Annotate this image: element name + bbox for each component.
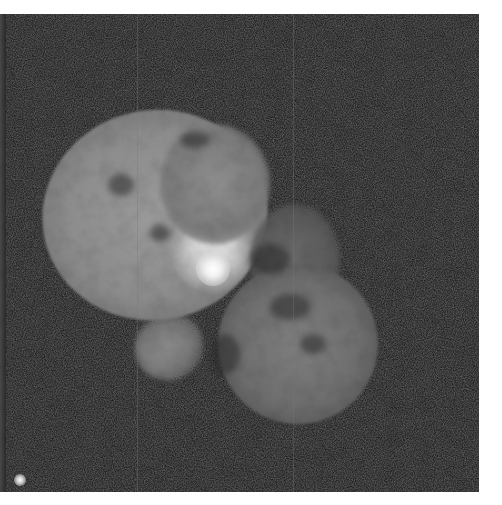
detector-streak: [293, 14, 294, 492]
field-star: [14, 474, 26, 486]
nebula-photograph: [0, 14, 479, 492]
canvas: [0, 0, 502, 505]
detector-streak: [137, 14, 138, 492]
nebula-texture: [0, 14, 479, 492]
central-star: [196, 252, 230, 286]
